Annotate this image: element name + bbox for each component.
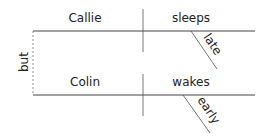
clause-1-modifier: late [201, 31, 225, 58]
clause-2-subject: Colin [70, 75, 100, 89]
clause-1-verb: sleeps [172, 11, 210, 25]
sentence-diagram: Callie sleeps late Colin wakes early but [0, 0, 268, 140]
clause-1: Callie sleeps late [33, 9, 255, 69]
clause-2-modifier: early [195, 94, 223, 127]
conjunction-label: but [17, 52, 31, 72]
clause-2: Colin wakes early [33, 74, 255, 133]
clause-2-verb: wakes [172, 75, 209, 89]
clause-1-subject: Callie [68, 11, 101, 25]
